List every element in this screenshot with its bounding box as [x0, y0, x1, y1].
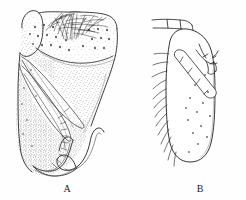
figure-plate: A B: [0, 0, 246, 200]
figure-label-b: B: [192, 184, 208, 194]
figure-label-a: A: [59, 184, 75, 194]
plate-drawing: [0, 0, 246, 200]
